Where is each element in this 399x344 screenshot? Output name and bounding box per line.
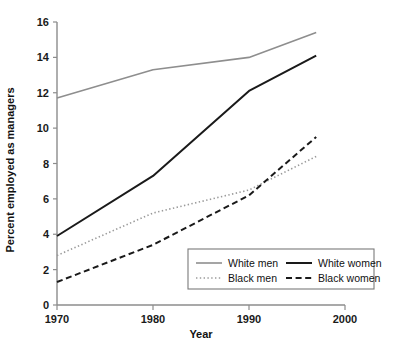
legend-label-black-women[interactable]: Black women <box>318 272 381 284</box>
chart-legend[interactable]: White menWhite womenBlack menBlack women <box>188 249 382 289</box>
x-tick-label: 1970 <box>45 313 69 325</box>
y-tick-label: 0 <box>43 299 49 311</box>
line-chart: 0246810121416 1970198019902000 Percent e… <box>0 0 399 344</box>
x-tick-label: 2000 <box>333 313 357 325</box>
legend-label-white-men[interactable]: White men <box>228 257 278 269</box>
x-axis-title: Year <box>189 328 213 340</box>
chart-background <box>0 0 399 344</box>
y-tick-label: 16 <box>37 16 49 28</box>
x-tick-label: 1990 <box>237 313 261 325</box>
y-tick-label: 2 <box>43 264 49 276</box>
y-tick-label: 10 <box>37 122 49 134</box>
y-tick-label: 8 <box>43 158 49 170</box>
y-tick-label: 12 <box>37 87 49 99</box>
y-tick-label: 14 <box>37 51 50 63</box>
legend-label-white-women[interactable]: White women <box>318 257 382 269</box>
chart-canvas: 0246810121416 1970198019902000 Percent e… <box>0 0 399 344</box>
y-axis-title: Percent employed as managers <box>4 87 16 252</box>
x-tick-label: 1980 <box>141 313 165 325</box>
y-tick-label: 6 <box>43 193 49 205</box>
y-tick-label: 4 <box>43 228 50 240</box>
legend-label-black-men[interactable]: Black men <box>228 272 277 284</box>
